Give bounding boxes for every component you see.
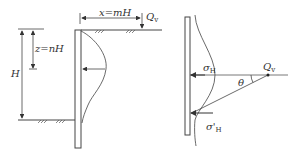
z-dimension-label: z=nH bbox=[34, 43, 64, 54]
load-label: Qv bbox=[146, 11, 158, 24]
sigma-h-label: σH bbox=[203, 62, 216, 75]
pressure-curve bbox=[81, 31, 106, 123]
right-figure: σH θ Qv σ'H bbox=[185, 15, 288, 146]
load-point bbox=[267, 74, 270, 77]
load-label: Qv bbox=[263, 61, 275, 74]
theta-arc bbox=[251, 75, 253, 83]
left-figure: x=mH z=nH H Qv bbox=[10, 7, 162, 148]
sigma-prime-label: σ'H bbox=[206, 121, 222, 134]
inclined-line bbox=[192, 75, 268, 113]
retaining-wall bbox=[75, 30, 81, 148]
retaining-wall bbox=[185, 17, 190, 135]
x-dimension-label: x=mH bbox=[99, 7, 132, 18]
theta-label: θ bbox=[238, 77, 244, 88]
diagram-canvas: x=mH z=nH H Qv σH θ Qv σ'H bbox=[0, 0, 302, 158]
h-dimension-label: H bbox=[10, 68, 20, 79]
